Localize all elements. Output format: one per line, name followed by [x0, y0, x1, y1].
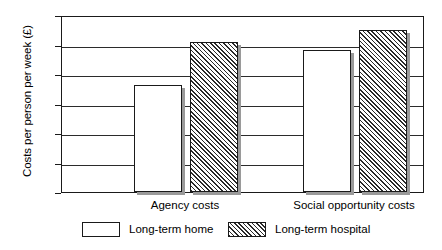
- legend-swatch-hatch-icon: [228, 222, 266, 237]
- bar-shadow: [137, 192, 185, 195]
- bar-chart: Costs per person per week (£) 0501001502…: [0, 0, 442, 250]
- legend-item-long-term-home: Long-term home: [82, 219, 213, 239]
- bar-1-0: [303, 50, 351, 192]
- bar-shadow-right: [407, 33, 410, 195]
- bar-shadow: [306, 192, 354, 195]
- bar-1-1: [359, 30, 407, 192]
- plot-area: [61, 16, 424, 193]
- legend-label-0: Long-term home: [129, 223, 213, 235]
- bar-shadow-right: [182, 88, 185, 195]
- bar-0-1: [190, 42, 238, 192]
- chart-legend: Long-term home Long-term hospital: [0, 219, 442, 243]
- bar-shadow: [362, 192, 410, 195]
- y-axis-title: Costs per person per week (£): [21, 1, 33, 201]
- bar-shadow: [193, 192, 241, 195]
- bar-shadow-right: [351, 53, 354, 195]
- legend-label-1: Long-term hospital: [275, 223, 370, 235]
- bar-shadow-right: [238, 45, 241, 195]
- legend-swatch-solid-icon: [82, 222, 120, 237]
- bar-0-0: [134, 85, 182, 192]
- legend-item-long-term-hospital: Long-term hospital: [228, 219, 370, 239]
- x-axis-category-label-1: Social opportunity costs: [244, 199, 442, 211]
- y-axis-tick-mark: [55, 193, 61, 194]
